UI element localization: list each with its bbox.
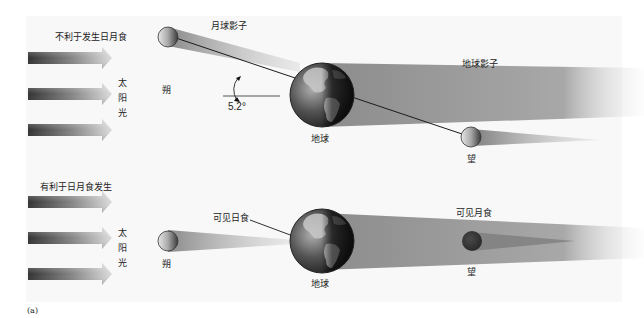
angle-arc — [234, 78, 238, 101]
sunlight-char: 光 — [117, 106, 127, 121]
eclipsed-full-moon — [462, 231, 482, 251]
moon-shadow-top — [168, 27, 300, 72]
earth-label-bottom: 地球 — [311, 280, 329, 289]
new-moon-bottom — [158, 231, 178, 251]
sunlight-arrows-top — [28, 47, 112, 141]
new-moon-label-top: 朔 — [162, 86, 171, 95]
solar-eclipse-pointer — [250, 220, 293, 236]
sunlight-char: 太 — [117, 76, 127, 91]
full-moon-top — [461, 127, 481, 147]
bottom-panel-title: 有利于日月食发生 — [40, 183, 112, 192]
sunlight-arrows-bottom — [28, 191, 112, 285]
moon-shadow-bottom — [168, 230, 294, 252]
eclipse-diagram — [0, 0, 644, 318]
angle-label: 5.2° — [228, 102, 246, 112]
sunlight-char: 光 — [117, 256, 127, 271]
earth-label-top: 地球 — [311, 135, 329, 144]
full-moon-label-bottom: 望 — [467, 268, 476, 277]
full-moon-shadow-top — [471, 129, 600, 146]
moon-shadow-label: 月球影子 — [211, 22, 247, 31]
full-moon-label-top: 望 — [467, 155, 476, 164]
new-moon-label-bottom: 朔 — [162, 260, 171, 269]
sunlight-char: 太 — [117, 226, 127, 241]
top-panel-title: 不利于发生日月食 — [55, 33, 127, 42]
figure-label: (a) — [27, 307, 38, 315]
earth-shadow-label: 地球影子 — [462, 60, 498, 69]
bottom-sunlight-label: 太 阳 光 — [117, 226, 127, 271]
sunlight-char: 阳 — [117, 91, 127, 106]
lunar-eclipse-label: 可见月食 — [456, 209, 492, 218]
earth-shadow-top — [322, 63, 644, 127]
new-moon-top — [158, 27, 178, 47]
solar-eclipse-label: 可见日食 — [213, 214, 249, 223]
top-sunlight-label: 太 阳 光 — [117, 76, 127, 121]
sunlight-char: 阳 — [117, 241, 127, 256]
